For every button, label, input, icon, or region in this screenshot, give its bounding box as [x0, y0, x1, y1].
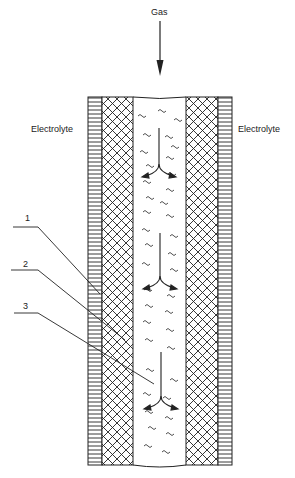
pore-bottom-edge [133, 465, 186, 467]
gas-arrow-icon [157, 21, 164, 76]
diffusion-arrow-icon-2 [143, 233, 177, 290]
right-electrolyte-layer [218, 97, 232, 465]
electrode-diagram [0, 0, 295, 478]
right-porous-layer [186, 97, 218, 465]
left-electrolyte-layer [88, 97, 102, 465]
callout-1-leader [13, 227, 100, 294]
left-porous-layer [102, 97, 133, 465]
liquid-squiggles [138, 110, 182, 454]
pore-top-edge [133, 97, 186, 99]
